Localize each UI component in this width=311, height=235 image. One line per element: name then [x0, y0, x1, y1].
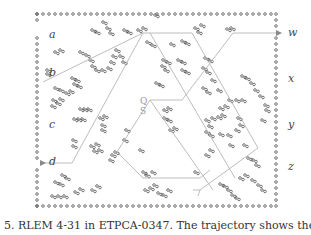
port-label-a: a	[49, 28, 56, 41]
state-label-s: S	[140, 106, 146, 116]
figure-rlem-diagram: a b c d w x y z Q S	[0, 0, 311, 215]
pattern-blocks	[46, 14, 271, 201]
port-label-d: d	[49, 155, 56, 168]
state-label-q: Q	[140, 96, 147, 106]
figure-caption: 5. RLEM 4-31 in ETPCA-0347. The trajecto…	[4, 219, 311, 232]
port-label-y: y	[288, 118, 294, 131]
port-label-x: x	[288, 72, 294, 85]
port-label-z: z	[288, 160, 294, 173]
ca-pattern-canvas	[0, 0, 311, 215]
port-label-b: b	[49, 66, 56, 79]
trajectory-lines	[40, 33, 276, 196]
port-label-c: c	[49, 118, 55, 131]
port-label-w: w	[288, 26, 297, 39]
